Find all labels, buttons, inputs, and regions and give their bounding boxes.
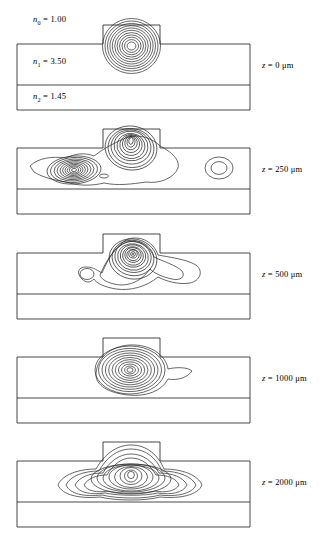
- figure-root: n0 = 1.00 n1 = 3.50 n2 = 1.45 z = 0 μm: [0, 0, 330, 537]
- waveguide-outline: [17, 129, 250, 214]
- index-label-n1: n1 = 3.50: [33, 56, 66, 68]
- panel-z250-canvas: [0, 104, 330, 219]
- z-label-2000: z = 2000 μm: [262, 477, 307, 487]
- z-label-500: z = 500 μm: [262, 269, 302, 279]
- index-label-n2: n2 = 1.45: [33, 91, 66, 103]
- panel-z500-canvas: [0, 209, 330, 324]
- panel-z2000: z = 2000 μm: [0, 417, 330, 537]
- contour-set-z2000: [58, 445, 202, 500]
- panel-z1000-canvas: [0, 313, 330, 428]
- panel-z0: n0 = 1.00 n1 = 3.50 n2 = 1.45 z = 0 μm: [0, 0, 330, 105]
- z-label-0: z = 0 μm: [262, 60, 294, 70]
- contour-set-z500: [79, 235, 201, 289]
- panel-z250: z = 250 μm: [0, 104, 330, 209]
- index-label-n0: n0 = 1.00: [33, 14, 66, 26]
- contour-set-z250: [30, 123, 233, 186]
- contour-set-z1000: [95, 345, 192, 395]
- z-label-1000: z = 1000 μm: [262, 373, 307, 383]
- panel-z500: z = 500 μm: [0, 209, 330, 314]
- panel-z1000: z = 1000 μm: [0, 313, 330, 418]
- contour-set-z0: [103, 19, 161, 74]
- z-label-250: z = 250 μm: [262, 164, 302, 174]
